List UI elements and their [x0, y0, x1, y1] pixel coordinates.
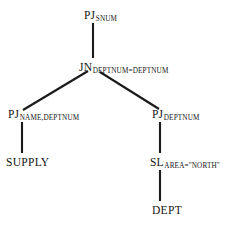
node-subscript: SNUM — [95, 15, 117, 23]
node-subscript: DEPTNUM — [163, 114, 199, 122]
node-project-snum: PJSNUM — [84, 10, 117, 23]
node-operator: PJ — [8, 108, 19, 120]
query-tree-diagram: PJSNUM JNDEPTNUM=DEPTNUM PJNAME,DEPTNUM … — [0, 0, 241, 226]
node-select-area-north: SLAREA="NORTH" — [150, 157, 220, 170]
node-subscript: NAME,DEPTNUM — [19, 114, 79, 122]
node-operator: SL — [150, 156, 164, 168]
node-subscript: AREA="NORTH" — [164, 162, 220, 170]
node-subscript: DEPTNUM=DEPTNUM — [92, 67, 168, 75]
node-join-deptnum: JNDEPTNUM=DEPTNUM — [79, 62, 168, 75]
leaf-relation-dept: DEPT — [152, 205, 182, 217]
node-project-deptnum: PJDEPTNUM — [152, 109, 200, 122]
node-operator: PJ — [152, 108, 163, 120]
edge-join-projright — [100, 72, 159, 109]
node-operator: PJ — [84, 9, 95, 21]
leaf-relation-supply: SUPPLY — [6, 157, 49, 169]
node-project-name-deptnum: PJNAME,DEPTNUM — [8, 109, 79, 122]
node-operator: JN — [79, 61, 92, 73]
edge-join-projleft — [23, 71, 88, 110]
